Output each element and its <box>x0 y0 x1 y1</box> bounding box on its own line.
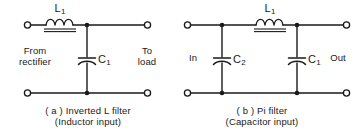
caption-b: ( b ) Pi filter (Capacitor input) <box>226 106 299 127</box>
terminal-b-output-top[interactable] <box>343 22 349 28</box>
port-label-b-output: Out <box>330 53 346 64</box>
port-label-a-output: To load <box>138 46 156 67</box>
terminal-a-input-top[interactable] <box>24 22 30 28</box>
terminal-a-output-top[interactable] <box>144 22 150 28</box>
capacitor-label-b-c2: C2 <box>233 53 246 66</box>
terminal-a-input-bottom[interactable] <box>24 90 30 96</box>
inductor-coil-b <box>256 19 283 25</box>
junction-dot-b-bottom-left <box>220 91 225 96</box>
filter-circuits-figure: L1 C1 From rectifier To load ( a ) Inver… <box>0 0 354 135</box>
inductor-label-a: L1 <box>55 2 66 15</box>
port-label-a-input: From rectifier <box>19 46 51 67</box>
inductor-coil-a <box>46 19 73 25</box>
circuit-b-pi-filter <box>184 19 349 96</box>
junction-dot-b-top-right <box>295 23 300 28</box>
terminal-a-output-bottom[interactable] <box>144 90 150 96</box>
capacitor-label-a: C1 <box>98 53 111 66</box>
junction-dot-a-top <box>85 23 90 28</box>
port-label-b-input: In <box>189 53 197 64</box>
junction-dot-b-bottom-right <box>295 91 300 96</box>
caption-a: ( a ) Inverted L filter (Inductor input) <box>45 106 130 127</box>
terminal-b-output-bottom[interactable] <box>343 90 349 96</box>
inductor-label-b: L1 <box>265 2 276 15</box>
junction-dot-b-top-left <box>220 23 225 28</box>
terminal-b-input-top[interactable] <box>184 22 190 28</box>
capacitor-label-b-c1: C1 <box>308 53 321 66</box>
terminal-b-input-bottom[interactable] <box>184 90 190 96</box>
junction-dot-a-bottom <box>85 91 90 96</box>
